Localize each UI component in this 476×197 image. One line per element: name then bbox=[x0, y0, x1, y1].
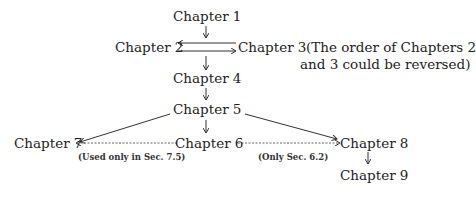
node-chapter-3: Chapter 3 bbox=[238, 39, 306, 55]
note-ch6-to-ch7: (Used only in Sec. 7.5) bbox=[78, 152, 185, 162]
arrow-ch5-to-ch8 bbox=[245, 114, 337, 139]
note-ch6-to-ch8: (Only Sec. 6.2) bbox=[258, 152, 328, 162]
note-order-line1: (The order of Chapters 2 bbox=[306, 39, 476, 55]
node-chapter-4: Chapter 4 bbox=[173, 70, 241, 86]
node-chapter-7: Chapter 7 bbox=[14, 135, 82, 151]
node-chapter-9: Chapter 9 bbox=[340, 167, 408, 183]
node-chapter-1: Chapter 1 bbox=[173, 8, 241, 24]
node-chapter-6: Chapter 6 bbox=[175, 135, 243, 151]
note-order-line2: and 3 could be reversed) bbox=[300, 56, 470, 72]
arrow-ch5-to-ch7 bbox=[80, 114, 170, 142]
node-chapter-8: Chapter 8 bbox=[340, 135, 408, 151]
node-chapter-2: Chapter 2 bbox=[115, 39, 183, 55]
node-chapter-5: Chapter 5 bbox=[173, 101, 241, 117]
